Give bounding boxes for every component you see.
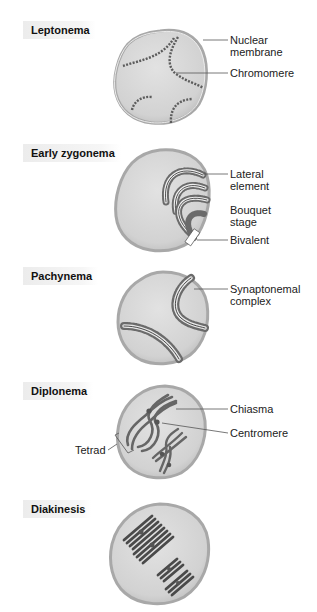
callout-bivalent: Bivalent (230, 234, 269, 246)
stage-early-zygonema: Early zygonema Lateral element Bouquet s… (0, 130, 317, 260)
callout-synaptonemal-complex: Synaptonemal complex (230, 283, 300, 307)
stage-diplonema: Diplonema Chiasma Centromere Tetrad (0, 375, 317, 490)
callout-centromere: Centromere (230, 427, 288, 439)
leptonema-cell-illustration (0, 0, 317, 130)
callout-tetrad: Tetrad (75, 444, 106, 456)
tetrad-leader-line (108, 444, 117, 450)
callout-bouquet-stage: Bouquet stage (230, 204, 271, 228)
callout-lateral-element: Lateral element (230, 168, 269, 192)
diakinesis-cell-illustration (0, 490, 317, 612)
callout-chiasma: Chiasma (230, 403, 273, 415)
stage-pachynema: Pachynema Synaptonemal complex (0, 260, 317, 375)
callout-nuclear-membrane: Nuclear membrane (230, 34, 283, 58)
pachynema-cell-illustration (0, 260, 317, 375)
early-zygonema-cell-illustration (0, 130, 317, 260)
stage-leptonema: Leptonema Nuclear membrane Chromomere (0, 0, 317, 130)
stage-diakinesis: Diakinesis (0, 490, 317, 612)
callout-chromomere: Chromomere (230, 67, 294, 79)
